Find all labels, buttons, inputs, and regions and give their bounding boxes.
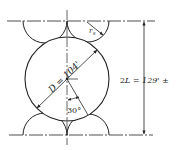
span-label: L = 129' ± — [124, 76, 169, 85]
angle-label: 30° — [67, 106, 81, 115]
diagram-canvas: D = 104' r s 30° 2 L = 129' ± — [0, 0, 182, 150]
radius-subscript: s — [93, 30, 96, 36]
